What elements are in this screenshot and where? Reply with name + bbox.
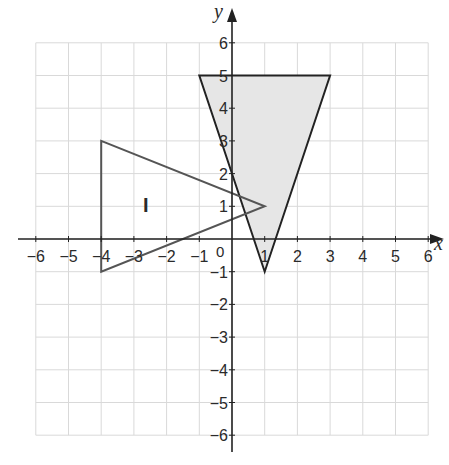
coordinate-plane: −6−5−4−3−2−1123456654321−1−2−3−4−5−6 x y… bbox=[0, 0, 449, 465]
x-tick-label: 1 bbox=[260, 248, 269, 265]
y-tick-label: 4 bbox=[219, 100, 228, 117]
y-tick-label: −5 bbox=[210, 395, 228, 412]
y-tick-label: −2 bbox=[210, 296, 228, 313]
y-tick-label: 1 bbox=[219, 198, 228, 215]
x-tick-label: 3 bbox=[326, 248, 335, 265]
y-tick-label: 3 bbox=[219, 133, 228, 150]
y-tick-label: −4 bbox=[210, 362, 228, 379]
x-tick-label: −4 bbox=[92, 248, 110, 265]
x-tick-label: −1 bbox=[190, 248, 208, 265]
coordinate-diagram: −6−5−4−3−2−1123456654321−1−2−3−4−5−6 x y… bbox=[0, 0, 449, 465]
origin-label: 0 bbox=[216, 243, 224, 260]
y-tick-label: 5 bbox=[219, 68, 228, 85]
x-tick-label: −6 bbox=[27, 248, 45, 265]
x-tick-label: 4 bbox=[358, 248, 367, 265]
y-tick-label: 2 bbox=[219, 166, 228, 183]
y-axis-arrow-icon bbox=[227, 8, 237, 22]
x-tick-label: −2 bbox=[157, 248, 175, 265]
y-axis-label: y bbox=[212, 0, 223, 23]
x-tick-label: 5 bbox=[391, 248, 400, 265]
x-tick-label: −5 bbox=[59, 248, 77, 265]
y-tick-label: −3 bbox=[210, 329, 228, 346]
x-tick-label: 2 bbox=[293, 248, 302, 265]
x-tick-label: −3 bbox=[125, 248, 143, 265]
x-axis-label: x bbox=[433, 232, 443, 254]
y-tick-label: −6 bbox=[210, 427, 228, 444]
x-tick-label: 6 bbox=[424, 248, 433, 265]
y-tick-label: 6 bbox=[219, 35, 228, 52]
y-tick-label: −1 bbox=[210, 264, 228, 281]
triangle-I-label: I bbox=[143, 194, 149, 216]
